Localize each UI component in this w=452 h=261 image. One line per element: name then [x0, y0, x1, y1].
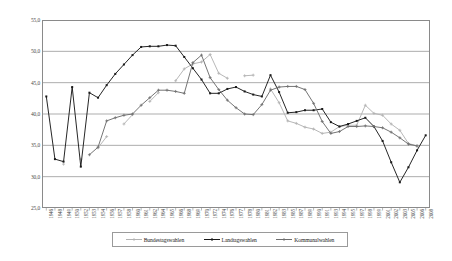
legend-item[interactable]: Landtagswahlen [204, 236, 257, 243]
x-tick-label: 2001 [385, 209, 391, 219]
data-point-marker [45, 95, 47, 97]
x-tick-label: 1946 [48, 209, 54, 219]
data-point-marker [106, 84, 108, 86]
legend-marker-square-icon [204, 236, 220, 243]
x-tick-label: 1966 [178, 209, 184, 219]
legend-label: Bundestagswahlen [144, 237, 184, 243]
x-tick-label: 1960 [135, 209, 141, 219]
data-point-marker [235, 86, 237, 88]
x-tick-label: 1993 [333, 209, 339, 219]
x-tick-label: 2003 [402, 209, 408, 219]
x-tick-label: 1985 [290, 209, 296, 219]
x-tick-label: 1991 [324, 209, 330, 219]
x-tick-label: 1995 [350, 209, 356, 219]
x-tick-label: 1968 [186, 209, 192, 219]
data-point-marker [114, 73, 116, 75]
x-tick-label: 1958 [126, 209, 132, 219]
data-point-marker [330, 121, 332, 123]
data-point-marker [364, 117, 366, 119]
x-tick-label: 1957 [117, 209, 123, 219]
x-tick-label: 1961 [143, 209, 149, 219]
x-tick-label: 1948 [57, 209, 63, 219]
x-tick-label: 2005 [410, 209, 416, 219]
series-bundestagswahlen [62, 53, 419, 166]
data-point-marker [211, 239, 213, 241]
x-tick-label: 1990 [316, 209, 322, 219]
data-point-marker [201, 79, 203, 81]
data-point-marker [338, 126, 340, 128]
legend-item[interactable]: Bundestagswahlen [126, 236, 184, 243]
x-tick-label: 1965 [169, 209, 175, 219]
data-point-marker [123, 63, 125, 65]
x-tick-label: 1980 [255, 209, 261, 219]
data-point-marker [226, 88, 228, 90]
x-tick-label: 1978 [247, 209, 253, 219]
data-point-marker [313, 109, 315, 111]
legend-marker-cross-icon [126, 236, 142, 243]
chart-legend: BundestagswahlenLandtagswahlenKommunalwa… [112, 232, 348, 247]
x-tick-label: 1997 [359, 209, 365, 219]
data-point-marker [166, 44, 168, 46]
data-point-marker [304, 109, 306, 111]
x-tick-label: 1987 [298, 209, 304, 219]
data-point-marker [295, 111, 297, 113]
x-tick-label: 2006 [419, 209, 425, 219]
x-tick-label: 2008 [428, 209, 434, 219]
data-point-marker [209, 92, 211, 94]
data-point-marker [244, 90, 246, 92]
x-tick-label: 1989 [307, 209, 313, 219]
data-point-marker [252, 94, 254, 96]
series-line [89, 55, 417, 155]
x-tick-label: 1974 [221, 209, 227, 219]
data-point-marker [321, 108, 323, 110]
series-line [176, 54, 228, 80]
data-point-marker [54, 158, 56, 160]
data-point-marker [356, 120, 358, 122]
x-tick-label: 1964 [160, 209, 166, 219]
x-tick-label: 1962 [152, 209, 158, 219]
x-tick-label: 1954 [100, 209, 106, 219]
x-tick-label: 2002 [393, 209, 399, 219]
x-tick-label: 1983 [281, 209, 287, 219]
data-point-marker [157, 45, 159, 47]
data-point-marker [425, 134, 427, 136]
x-tick-label: 1956 [109, 209, 115, 219]
series-line [270, 89, 417, 146]
x-tick-label: 1981 [264, 209, 270, 219]
x-tick-label: 1969 [195, 209, 201, 219]
x-tick-label: 1977 [238, 209, 244, 219]
data-point-marker [347, 123, 349, 125]
data-point-marker [416, 149, 418, 151]
x-tick-label: 1952 [83, 209, 89, 219]
x-tick-label: 1950 [74, 209, 80, 219]
data-point-marker [407, 166, 409, 168]
series-kommunalwahlen [88, 54, 419, 157]
data-point-marker [175, 45, 177, 47]
data-point-marker [390, 161, 392, 163]
data-point-marker [88, 92, 90, 94]
data-point-marker [382, 140, 384, 142]
data-point-marker [149, 45, 151, 47]
data-point-marker [80, 166, 82, 168]
legend-item[interactable]: Kommunalwahlen [276, 236, 334, 243]
data-point-marker [399, 181, 401, 183]
x-tick-label: 1982 [272, 209, 278, 219]
data-point-marker [183, 56, 185, 58]
data-point-marker [63, 161, 65, 163]
x-tick-label: 1999 [376, 209, 382, 219]
data-point-marker [261, 95, 263, 97]
x-tick-label: 1953 [91, 209, 97, 219]
data-point-marker [269, 74, 271, 76]
x-tick-label: 1998 [367, 209, 373, 219]
x-tick-label: 1994 [341, 209, 347, 219]
x-tick-label: 1949 [66, 209, 72, 219]
series-line [124, 115, 133, 124]
legend-label: Landtagswahlen [222, 237, 257, 243]
x-tick-label: 1976 [229, 209, 235, 219]
legend-marker-cross-icon [276, 236, 292, 243]
data-point-marker [278, 91, 280, 93]
data-point-marker [132, 54, 134, 56]
data-point-marker [192, 67, 194, 69]
data-point-marker [218, 92, 220, 94]
data-point-marker [140, 46, 142, 48]
